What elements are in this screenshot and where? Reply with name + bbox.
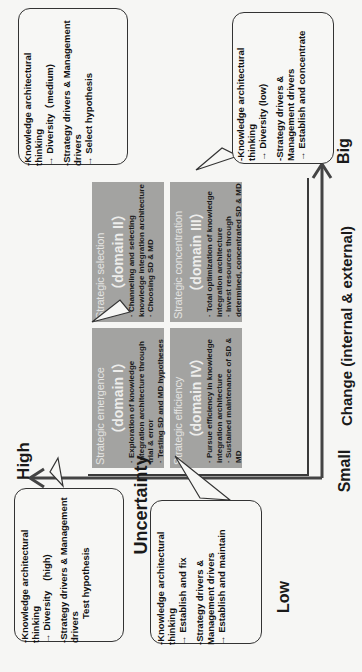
callout-line: -Strategy drivers & Management drivers <box>61 20 83 166</box>
quadrant-domain-label: （domain I） <box>109 329 127 467</box>
quadrant-domain-3: Strategic concentration （domain III） · T… <box>170 182 242 322</box>
callout-line: -Knowledge architectural thinking <box>19 530 41 644</box>
callout-domain-2: -Knowledge architectural thinking → Dive… <box>18 8 128 165</box>
quadrant-domain-label: （domain II） <box>109 183 127 321</box>
callout-line: -Strategy drivers & Management drivers <box>58 497 80 643</box>
callout-line: → Diversity (low) <box>257 84 268 161</box>
quadrant-domain-1: Strategic emergence （domain I） · Explora… <box>92 328 164 468</box>
callout-line: → Diversity（medium) <box>44 64 55 166</box>
uncertainty-low-label: Low <box>273 577 295 617</box>
callout-line: → Establish and fix <box>177 557 188 645</box>
callout-line: -Strategy drivers & Management drivers <box>194 553 216 645</box>
quadrant-bullet: · Sustained maintenance of SD & MD <box>224 329 243 467</box>
quadrant-title: Strategic selection <box>94 183 107 321</box>
quadrant-bullet: · Exploration of knowledge integration a… <box>127 329 156 467</box>
quadrant-bullet: · Total optimization of knowledge integr… <box>205 183 224 321</box>
callout-line: → Establish and concentrate <box>296 31 307 161</box>
quadrant-bullet: · Pursue efficiency in knowledge integra… <box>205 329 224 467</box>
callout-line: Test hypothesis <box>80 547 91 643</box>
callout-line: -Knowledge architectural thinking <box>22 53 44 167</box>
change-small-label: Small <box>334 444 356 498</box>
callout-domain-4: -Knowledge architectural thinking → Esta… <box>150 500 262 644</box>
quadrant-bullet: · Choosing SD & MD <box>146 183 156 321</box>
callout-tail-domain-1 <box>50 458 63 486</box>
quadrant-bullet: · Channeling and selecting knowledge int… <box>127 183 146 321</box>
change-axis-title: Change (internal & external) <box>336 236 358 426</box>
quadrant-domain-label: （domain III） <box>187 183 205 321</box>
uncertainty-axis-title: Uncertainty <box>130 450 152 560</box>
callout-line: -Knowledge architectural thinking <box>235 48 257 162</box>
uncertainty-high-label: High <box>13 441 35 481</box>
quadrant-title: Strategic emergence <box>94 329 107 467</box>
callout-line: → Diversity (high) <box>41 554 52 643</box>
change-big-label: Big <box>333 131 355 171</box>
callout-line: -Knowledge architectural thinking <box>155 532 177 646</box>
callout-line: → Establish and maintain <box>216 529 227 645</box>
quadrant-domain-label: （domain IV） <box>187 329 205 467</box>
callout-line: -Strategy drivers & Management drivers <box>274 69 296 161</box>
quadrant-bullet: · Testing SD and MD hypotheses <box>156 329 166 467</box>
quadrant-title: Strategic concentration <box>172 183 185 321</box>
quadrant-domain-2: Strategic selection （domain II） · Channe… <box>92 182 164 322</box>
callout-line: → Select hypothesis <box>83 73 94 166</box>
quadrant-title: Strategic efficiency <box>172 329 185 467</box>
change-axis-arrowhead <box>313 164 331 178</box>
quadrant-bullet: · Invest resources through determined, c… <box>224 183 243 321</box>
callout-domain-1: -Knowledge architectural thinking → Dive… <box>14 488 124 642</box>
callout-domain-3: -Knowledge architectural thinking → Dive… <box>232 12 334 164</box>
quadrant-domain-4: Strategic efficiency （domain IV） · Pursu… <box>170 328 242 468</box>
